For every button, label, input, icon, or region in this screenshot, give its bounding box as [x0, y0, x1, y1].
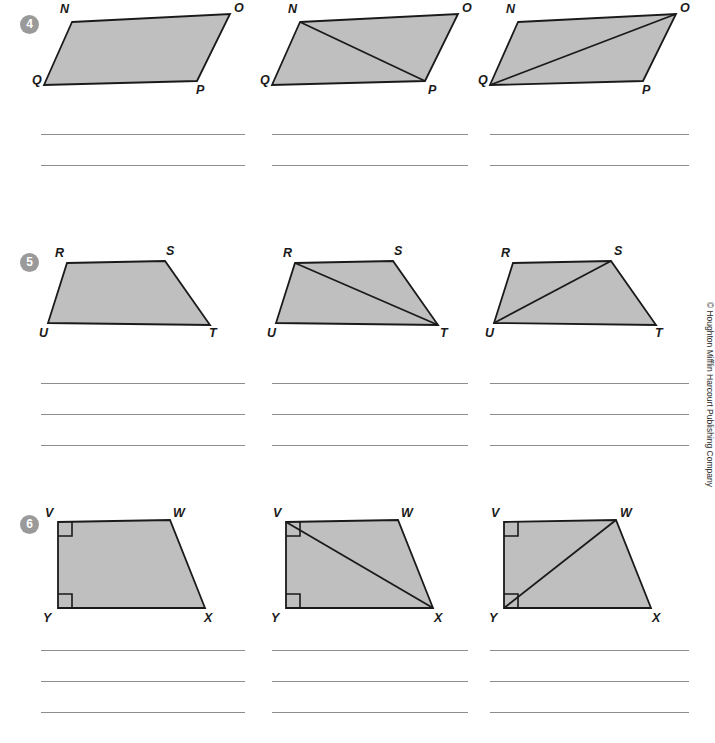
answer-lines-6: [0, 646, 706, 739]
answer-line-row: [0, 379, 706, 410]
answer-line-row: [0, 441, 706, 472]
vertex-label-R: R: [501, 246, 510, 260]
figure-4-3: N O P Q: [476, 0, 691, 110]
figure-6-2: V W X Y: [258, 500, 473, 625]
answer-line-row: [0, 677, 706, 708]
answer-line[interactable]: [41, 134, 245, 135]
trapezoid-outline: [494, 261, 656, 325]
answer-line[interactable]: [490, 681, 689, 682]
vertex-label-V: V: [491, 506, 501, 520]
vertex-label-X: X: [203, 611, 213, 625]
vertex-label-Y: Y: [489, 611, 499, 625]
answer-line[interactable]: [41, 445, 245, 446]
answer-line[interactable]: [272, 650, 468, 651]
vertex-label-U: U: [267, 326, 277, 340]
answer-line[interactable]: [272, 383, 468, 384]
parallelogram-outline: [272, 14, 458, 85]
copyright-notice: © Houghton Mifflin Harcourt Publishing C…: [705, 302, 715, 487]
answer-line[interactable]: [490, 712, 689, 713]
figure-6-3: V W X Y: [476, 500, 691, 625]
vertex-label-T: T: [440, 326, 449, 340]
vertex-label-O: O: [680, 1, 690, 15]
answer-line[interactable]: [41, 650, 245, 651]
answer-line[interactable]: [490, 414, 689, 415]
answer-line-row: [0, 161, 706, 192]
parallelogram-outline: [44, 14, 230, 85]
vertex-label-U: U: [485, 326, 495, 340]
answer-line[interactable]: [490, 383, 689, 384]
answer-line[interactable]: [490, 165, 689, 166]
answer-line[interactable]: [41, 681, 245, 682]
answer-line-row: [0, 646, 706, 677]
vertex-label-Y: Y: [43, 611, 53, 625]
vertex-label-P: P: [642, 83, 651, 97]
answer-line[interactable]: [272, 681, 468, 682]
vertex-label-S: S: [166, 244, 175, 258]
vertex-label-W: W: [620, 506, 633, 520]
vertex-label-X: X: [433, 611, 443, 625]
vertex-label-T: T: [655, 326, 664, 340]
answer-line[interactable]: [272, 414, 468, 415]
vertex-label-W: W: [173, 506, 186, 520]
vertex-label-S: S: [614, 244, 623, 258]
answer-line[interactable]: [272, 445, 468, 446]
answer-line[interactable]: [41, 712, 245, 713]
vertex-label-O: O: [234, 1, 244, 15]
answer-line-row: [0, 130, 706, 161]
vertex-label-R: R: [283, 246, 292, 260]
vertex-label-T: T: [209, 326, 218, 340]
answer-line[interactable]: [41, 383, 245, 384]
figure-5-2: R S T U: [258, 235, 473, 345]
vertex-label-S: S: [394, 244, 403, 258]
vertex-label-O: O: [462, 1, 472, 15]
answer-line[interactable]: [41, 414, 245, 415]
vertex-label-N: N: [506, 2, 516, 16]
figure-4-2: N O P Q: [258, 0, 473, 110]
vertex-label-Q: Q: [32, 73, 42, 87]
trapezoid-outline: [48, 261, 210, 325]
answer-lines-4: [0, 130, 706, 192]
answer-lines-5: [0, 379, 706, 472]
answer-line[interactable]: [41, 165, 245, 166]
vertex-label-R: R: [55, 246, 64, 260]
answer-line[interactable]: [490, 650, 689, 651]
figure-4-1: N O P Q: [30, 0, 245, 110]
vertex-label-P: P: [196, 83, 205, 97]
answer-line-row: [0, 708, 706, 739]
vertex-label-V: V: [273, 506, 283, 520]
answer-line[interactable]: [272, 165, 468, 166]
vertex-label-V: V: [45, 506, 55, 520]
answer-line[interactable]: [272, 134, 468, 135]
vertex-label-Y: Y: [271, 611, 281, 625]
vertex-label-X: X: [651, 611, 661, 625]
right-trapezoid-outline: [504, 520, 651, 608]
answer-line[interactable]: [490, 134, 689, 135]
vertex-label-N: N: [60, 2, 70, 16]
vertex-label-N: N: [288, 2, 298, 16]
vertex-label-Q: Q: [478, 73, 488, 87]
answer-line-row: [0, 410, 706, 441]
right-trapezoid-outline: [58, 520, 205, 608]
vertex-label-P: P: [428, 83, 437, 97]
answer-line[interactable]: [272, 712, 468, 713]
answer-line[interactable]: [490, 445, 689, 446]
vertex-label-W: W: [401, 506, 414, 520]
vertex-label-U: U: [39, 326, 49, 340]
figure-5-3: R S T U: [476, 235, 691, 345]
figure-5-1: R S T U: [30, 235, 245, 345]
figure-6-1: V W X Y: [30, 500, 245, 625]
vertex-label-Q: Q: [260, 73, 270, 87]
